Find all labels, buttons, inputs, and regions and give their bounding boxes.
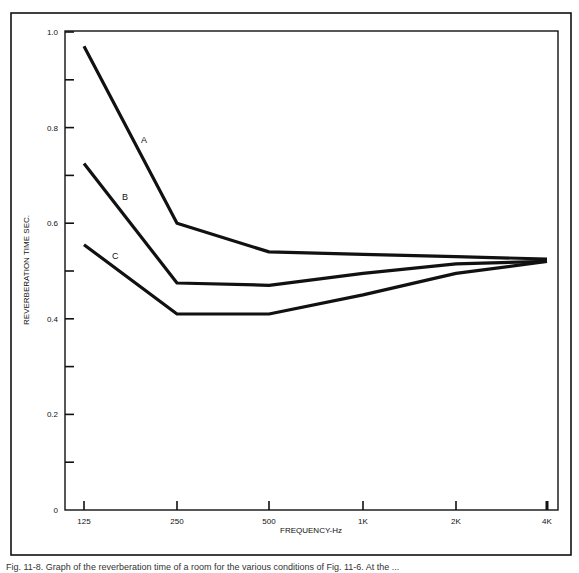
y-tick-label: 1.0: [47, 28, 59, 37]
figure-caption: Fig. 11-8. Graph of the reverberation ti…: [6, 561, 576, 573]
x-tick-label: 500: [262, 517, 276, 526]
x-axis-ticks: 1252505001K2K4K: [77, 501, 552, 526]
y-axis-ticks: 00.20.40.60.81.0: [47, 28, 74, 515]
x-tick-label: 1K: [358, 517, 368, 526]
y-tick-label: 0.8: [47, 124, 59, 133]
x-tick-label: 250: [170, 517, 184, 526]
x-axis-title: FREQUENCY-Hz: [280, 526, 342, 535]
series-line-a: [84, 46, 547, 259]
y-tick-label: 0: [54, 506, 59, 515]
series-lines: ABC: [84, 46, 547, 314]
x-tick-label: 125: [77, 517, 91, 526]
y-axis-title: REVERBERATION TIME SEC.: [22, 215, 31, 325]
series-label-a: A: [141, 135, 147, 145]
y-tick-label: 0.2: [47, 410, 59, 419]
y-tick-label: 0.6: [47, 219, 59, 228]
series-label-c: C: [112, 251, 119, 261]
x-tick-label: 4K: [542, 517, 552, 526]
x-tick-label: 2K: [451, 517, 461, 526]
y-tick-label: 0.4: [47, 315, 59, 324]
series-label-b: B: [122, 192, 128, 202]
